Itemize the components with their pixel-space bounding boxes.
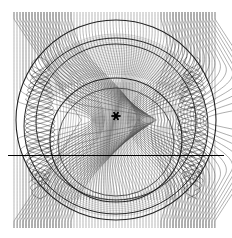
ray-tracing-plot-canvas bbox=[0, 0, 232, 238]
figure-root bbox=[0, 0, 232, 238]
